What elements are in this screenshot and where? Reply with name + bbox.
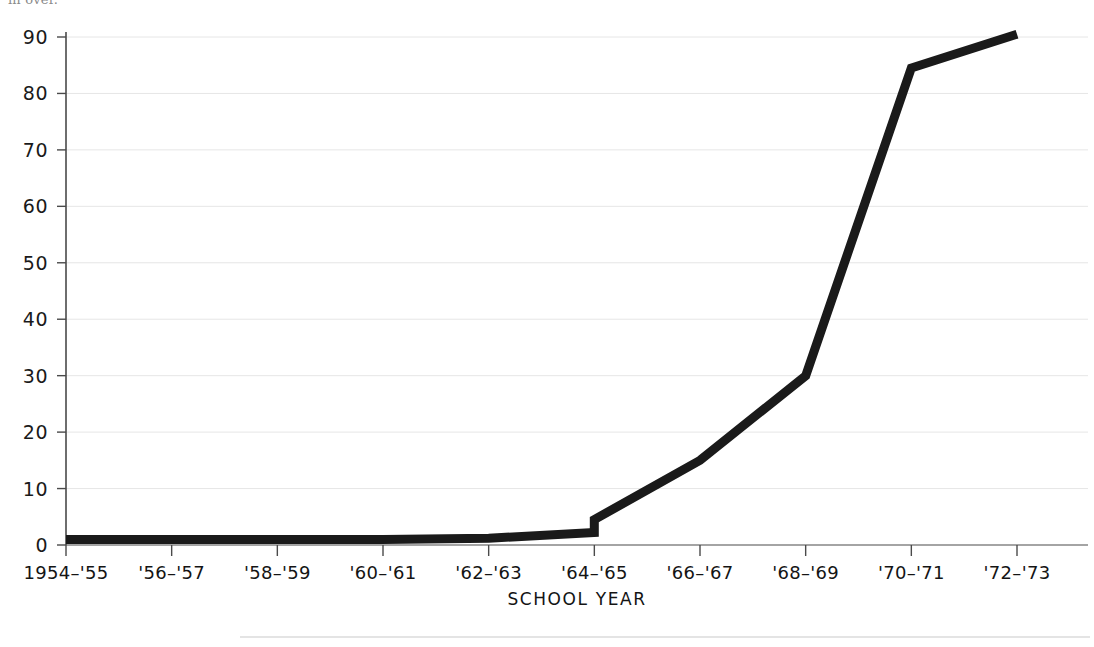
x-axis-title: SCHOOL YEAR xyxy=(507,589,646,609)
line-chart-canvas: 0102030405060708090 1954–'55'56–'57'58–'… xyxy=(0,0,1094,647)
x-tick-label: '62–'63 xyxy=(455,562,522,583)
x-tick-label: '64–'65 xyxy=(561,562,628,583)
x-tick-label: '68–'69 xyxy=(772,562,839,583)
y-tick-label: 20 xyxy=(23,421,48,443)
x-tick-label: '56–'57 xyxy=(138,562,205,583)
x-tick-label: '58–'59 xyxy=(244,562,311,583)
y-tick-label: 70 xyxy=(23,139,48,161)
y-tick-label: 90 xyxy=(23,26,48,48)
chart-figure: in over. 0102030405060708090 1954–'55'56… xyxy=(0,0,1094,647)
x-tick-label: '72–'73 xyxy=(984,562,1051,583)
y-tick-label: 0 xyxy=(35,534,48,556)
x-tick-label: 1954–'55 xyxy=(23,562,108,583)
y-tick-label: 10 xyxy=(23,478,48,500)
x-axis-tick-labels: 1954–'55'56–'57'58–'59'60–'61'62–'63'64–… xyxy=(23,562,1050,583)
y-tick-label: 50 xyxy=(23,252,48,274)
y-tick-label: 80 xyxy=(23,82,48,104)
y-axis-ticks xyxy=(57,37,66,545)
y-axis-tick-labels: 0102030405060708090 xyxy=(23,26,48,556)
horizontal-gridlines xyxy=(66,37,1088,489)
x-tick-label: '60–'61 xyxy=(350,562,417,583)
y-tick-label: 60 xyxy=(23,195,48,217)
x-axis-ticks xyxy=(66,545,1017,556)
y-tick-label: 30 xyxy=(23,365,48,387)
data-series-line xyxy=(66,34,1017,539)
x-tick-label: '70–'71 xyxy=(878,562,945,583)
x-tick-label: '66–'67 xyxy=(667,562,734,583)
y-tick-label: 40 xyxy=(23,308,48,330)
